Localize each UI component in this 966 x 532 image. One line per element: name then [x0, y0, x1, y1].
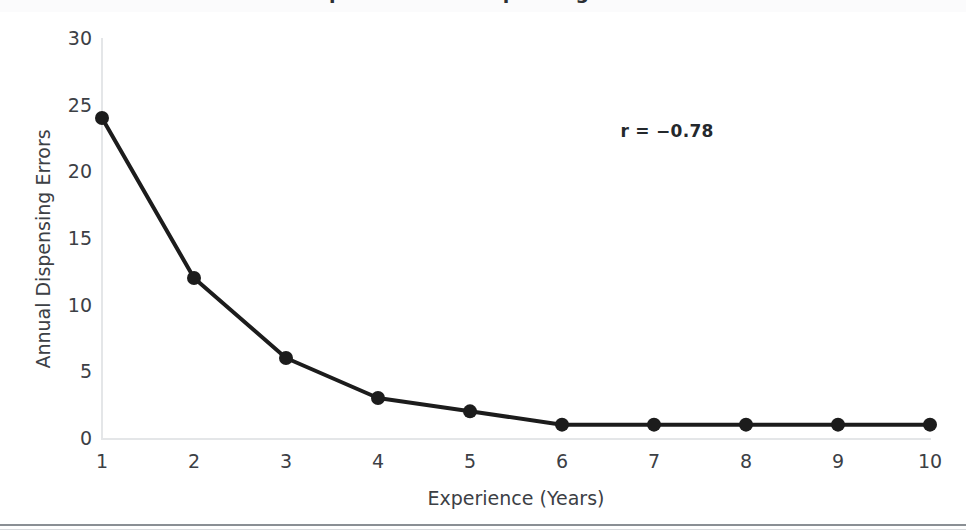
series-line: [102, 118, 930, 425]
data-point-x1: [95, 111, 109, 125]
data-point-x9: [831, 418, 845, 432]
data-point-x8: [739, 418, 753, 432]
data-point-x2: [187, 271, 201, 285]
plot-area: 051015202530 12345678910 Annual Dispensi…: [0, 0, 966, 532]
data-series-layer: [0, 0, 966, 532]
data-point-x10: [923, 418, 937, 432]
footer-divider-secondary: [0, 529, 966, 530]
series-markers: [95, 111, 937, 432]
correlation-annotation: r = −0.78: [620, 121, 713, 141]
data-point-x7: [647, 418, 661, 432]
data-point-x5: [463, 404, 477, 418]
data-point-x4: [371, 391, 385, 405]
data-point-x6: [555, 418, 569, 432]
footer-divider: [0, 524, 966, 526]
data-point-x3: [279, 351, 293, 365]
chart-page: Experience vs. Dispensing Errors 0510152…: [0, 0, 966, 532]
